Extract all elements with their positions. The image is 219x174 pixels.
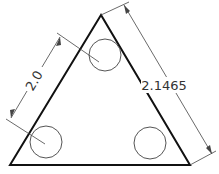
- extension-line-bottom-right: [190, 151, 216, 165]
- arrowhead-bottom: [10, 109, 15, 118]
- hole-spacing-label: 2.0: [22, 68, 46, 93]
- top-hole-circle: [89, 39, 121, 71]
- arrowhead-top: [56, 37, 61, 46]
- dimension-line-upper: [42, 37, 60, 67]
- dimension-line-lower: [11, 91, 27, 118]
- side-length-label: 2.1465: [141, 78, 187, 93]
- extension-line-top: [57, 33, 99, 62]
- technical-drawing: 2.0 2.1465: [0, 0, 219, 174]
- arrowhead-top: [124, 5, 130, 14]
- arrowhead-bottom: [206, 145, 212, 154]
- bottom-right-hole-circle: [134, 127, 166, 159]
- bottom-left-hole-circle: [30, 126, 62, 158]
